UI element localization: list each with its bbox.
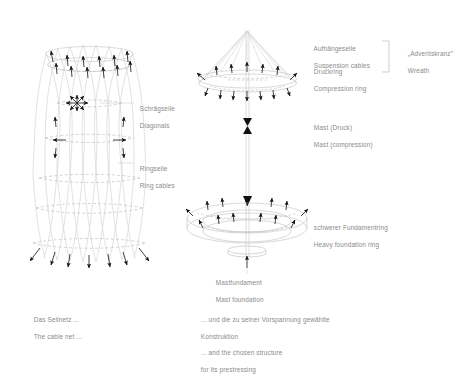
label-foundation-ring-de: schwerer Fundamentring: [314, 224, 388, 231]
label-wreath: „Adventskranz" Wreath: [404, 42, 453, 75]
label-diagonals: Schrägseile Diagonals: [136, 97, 175, 130]
label-wreath-de: „Adventskranz": [408, 50, 453, 57]
label-compression-ring: Druckring Compression ring: [310, 60, 366, 93]
caption-cable-net-de: Das Seilnetz ...: [34, 316, 79, 323]
label-foundation-ring-en: Heavy foundation ring: [314, 241, 379, 248]
label-ring-cables-de: Ringseile: [140, 165, 168, 172]
caption-structure-line-1: ... und die zu seiner Vorspannung gewähl…: [201, 316, 330, 323]
caption-cable-net: Das Seilnetz ... The cable net ...: [30, 308, 82, 341]
mast-foundation-pad: [228, 246, 266, 257]
net-bottom-arrows: [30, 248, 149, 268]
caption-structure-line-2: Konstruktion: [201, 333, 238, 340]
mast-compression-marker: [243, 118, 252, 206]
label-mast: Mast (Druck) Mast (compression): [310, 116, 373, 149]
caption-structure-line-4: for its prestressing: [201, 366, 256, 373]
suspension-cables: [199, 31, 296, 83]
diagram-canvas: Schrägseile Diagonals Ringseile Ring cab…: [0, 0, 471, 377]
label-mast-foundation: Mastfundament Mast foundation: [212, 271, 264, 304]
caption-structure-line-3: ... and the chosen structure: [201, 349, 283, 356]
label-wreath-en: Wreath: [408, 67, 429, 74]
label-ring-cables: Ringseile Ring cables: [136, 157, 175, 190]
mast-shaft: [246, 30, 249, 258]
label-mast-foundation-de: Mastfundament: [216, 279, 262, 286]
compression-ring: [199, 70, 297, 92]
label-mast-de: Mast (Druck): [314, 124, 352, 131]
label-compression-ring-de: Druckring: [314, 68, 343, 75]
label-foundation-ring: schwerer Fundamentring Heavy foundation …: [310, 216, 388, 249]
label-mast-en: Mast (compression): [314, 141, 373, 148]
label-ring-cables-en: Ring cables: [140, 182, 175, 189]
label-mast-foundation-en: Mast foundation: [216, 296, 264, 303]
net-waist-radial-arrows: [66, 95, 88, 111]
label-suspension-cables-de: Aufhängeseile: [314, 45, 356, 52]
wreath-bracket: [382, 41, 389, 72]
caption-cable-net-en: The cable net ...: [34, 333, 82, 340]
label-diagonals-de: Schrägseile: [140, 105, 175, 112]
net-waist-side-arrows: [53, 117, 126, 158]
foundation-ring: [187, 203, 307, 243]
caption-structure: ... und die zu seiner Vorspannung gewähl…: [197, 308, 330, 374]
label-compression-ring-en: Compression ring: [314, 85, 366, 92]
label-diagonals-en: Diagonals: [140, 122, 170, 129]
net-leader-lines: [100, 103, 134, 163]
cable-net-group: [30, 45, 149, 268]
